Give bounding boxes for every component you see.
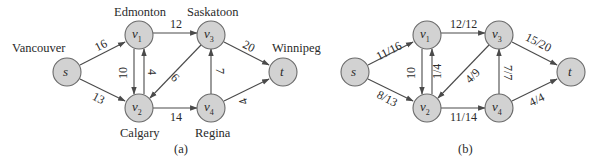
edge-s-v1: 11/16 bbox=[368, 39, 413, 65]
node-v1: v1 Edmonton bbox=[114, 5, 167, 49]
caption-b: (b) bbox=[458, 142, 473, 156]
edge-label: 4 bbox=[236, 96, 251, 106]
edge-label: 20 bbox=[240, 37, 257, 55]
edge-label: 12 bbox=[170, 17, 182, 31]
edge-v1-v3: 12/12 bbox=[441, 17, 485, 33]
edge-label: 7/7 bbox=[501, 65, 515, 80]
node-subscript: 2 bbox=[426, 108, 430, 117]
edge-v3-t: 20 bbox=[224, 37, 269, 65]
edge-label: 10 bbox=[116, 67, 130, 79]
city-label-vancouver: Vancouver bbox=[12, 41, 66, 55]
edge-s-v2: 13 bbox=[80, 79, 125, 107]
edge-label: 4/9 bbox=[462, 65, 483, 86]
edge-s-v2: 8/13 bbox=[368, 79, 413, 110]
node-v2: v2 Calgary bbox=[120, 94, 160, 140]
edge-v1-v2: 10 bbox=[404, 49, 422, 94]
edge-v3-v2: 4/9 bbox=[438, 45, 489, 98]
edge-v3-t: 15/20 bbox=[512, 30, 557, 65]
edge-label: 8/13 bbox=[375, 87, 400, 109]
city-label-saskatoon: Saskatoon bbox=[187, 5, 239, 19]
node-subscript: 3 bbox=[498, 35, 502, 44]
city-label-calgary: Calgary bbox=[120, 126, 160, 140]
node-v1: v1 bbox=[413, 21, 441, 49]
flow-network-b: 11/16 8/13 10 1/4 12/12 4/9 11/14 7/7 bbox=[341, 17, 585, 156]
node-s: s Vancouver bbox=[12, 41, 81, 86]
node-v3: v3 Saskatoon bbox=[187, 5, 239, 49]
edge-label: 4 bbox=[145, 69, 159, 75]
node-s: s bbox=[341, 58, 369, 86]
edge-label: 1/4 bbox=[430, 64, 444, 79]
edge-label: 12/12 bbox=[450, 17, 477, 31]
edge-v1-v3: 12 bbox=[153, 17, 197, 33]
city-label-regina: Regina bbox=[195, 126, 231, 140]
edge-v4-v3: 7 bbox=[211, 49, 227, 94]
edge-label: 11/16 bbox=[374, 39, 404, 64]
node-v3: v3 bbox=[485, 21, 513, 49]
node-v4: v4 Regina bbox=[195, 94, 231, 140]
node-subscript: 4 bbox=[210, 108, 214, 117]
city-label-winnipeg: Winnipeg bbox=[272, 41, 322, 55]
node-label: t bbox=[568, 64, 572, 79]
flow-network-figure: 16 13 10 4 12 9 14 7 bbox=[0, 0, 616, 164]
edge-v4-t: 4 bbox=[224, 79, 269, 107]
edge-label: 13 bbox=[90, 89, 107, 107]
edge-label: 15/20 bbox=[523, 30, 554, 55]
node-label: t bbox=[280, 64, 284, 79]
edge-label: 7 bbox=[213, 68, 227, 74]
node-subscript: 4 bbox=[498, 108, 502, 117]
node-v2: v2 bbox=[413, 94, 441, 122]
node-v4: v4 bbox=[485, 94, 513, 122]
node-label: s bbox=[351, 64, 356, 79]
edge-v4-v3: 7/7 bbox=[499, 49, 515, 94]
edge-v2-v1: 1/4 bbox=[430, 49, 444, 94]
caption-a: (a) bbox=[174, 142, 188, 156]
node-subscript: 1 bbox=[138, 35, 142, 44]
edge-v2-v4: 11/14 bbox=[441, 108, 485, 124]
edge-label: 10 bbox=[404, 67, 418, 79]
edge-label: 11/14 bbox=[450, 110, 477, 124]
edge-s-v1: 16 bbox=[80, 36, 125, 65]
flow-network-a: 16 13 10 4 12 9 14 7 bbox=[12, 5, 322, 156]
edge-v1-v2: 10 bbox=[116, 49, 134, 94]
node-t: t Winnipeg bbox=[269, 41, 322, 86]
node-subscript: 2 bbox=[138, 108, 142, 117]
edge-v2-v1: 4 bbox=[144, 49, 159, 94]
edge-v2-v4: 14 bbox=[153, 108, 197, 124]
city-label-edmonton: Edmonton bbox=[114, 5, 167, 19]
edge-v4-t: 4/4 bbox=[512, 79, 557, 109]
edge-label: 14 bbox=[170, 110, 182, 124]
node-subscript: 3 bbox=[210, 35, 214, 44]
node-label: s bbox=[63, 64, 68, 79]
node-subscript: 1 bbox=[426, 35, 430, 44]
node-t: t bbox=[557, 58, 585, 86]
